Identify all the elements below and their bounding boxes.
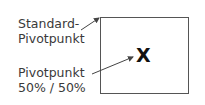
arrows — [0, 0, 205, 105]
default-pivot-arrow — [81, 18, 99, 30]
center-pivot-arrow — [92, 57, 133, 74]
